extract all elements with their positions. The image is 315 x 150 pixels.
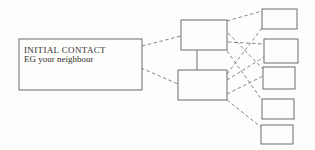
option-box-1 bbox=[262, 9, 297, 29]
initial-contact-label-line2: EG your neighbour bbox=[24, 54, 94, 64]
scanned-diagram-page: INITIAL CONTACT EG your neighbour bbox=[0, 0, 315, 150]
edge-initial-to-stage-bottom bbox=[141, 68, 178, 84]
option-box-4 bbox=[262, 99, 294, 119]
edge-stage-bottom-to-option5 bbox=[227, 100, 261, 127]
edge-stage-bottom-to-option3 bbox=[227, 76, 263, 94]
edge-stage-bottom-to-option1 bbox=[227, 28, 262, 74]
edge-initial-to-stage-top bbox=[142, 36, 181, 46]
option-box-2 bbox=[264, 39, 298, 63]
option-box-5 bbox=[261, 125, 293, 144]
stage-top-box bbox=[181, 20, 227, 50]
edge-stage-top-to-option1 bbox=[227, 11, 262, 21]
option-box-3 bbox=[263, 67, 295, 89]
flow-diagram: INITIAL CONTACT EG your neighbour bbox=[0, 0, 315, 150]
edge-stage-top-to-option4 bbox=[227, 51, 262, 100]
stage-bottom-box bbox=[178, 70, 227, 100]
edge-stage-top-to-option3 bbox=[228, 33, 263, 69]
edge-stage-top-to-option2 bbox=[228, 42, 264, 44]
